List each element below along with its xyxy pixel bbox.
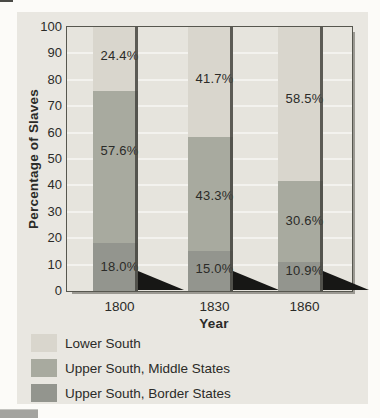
x-tick-label-1800: 1800	[90, 299, 150, 314]
bar-1860: 10.9%30.6%58.5%	[278, 27, 323, 291]
legend-swatch-icon	[31, 384, 57, 402]
x-axis-title: Year	[199, 316, 228, 331]
scan-artifact-mark	[0, 0, 13, 2]
bar-1800: 18.0%57.6%24.4%	[93, 27, 138, 291]
scanned-chart-page: Percentage of Slaves 18.0%57.6%24.4%15.0…	[0, 0, 380, 418]
bar-shadow-triangle	[138, 271, 184, 290]
y-tick-label-30: 30	[20, 204, 62, 220]
y-tick-label-60: 60	[20, 125, 62, 141]
y-tick-label-10: 10	[20, 257, 62, 273]
legend-swatch-icon	[31, 359, 57, 377]
legend-row: Upper South, Middle States	[31, 359, 231, 377]
bar-segment	[93, 91, 138, 243]
legend-label: Upper South, Border States	[65, 386, 231, 401]
y-tick-label-90: 90	[20, 45, 62, 61]
y-tick-label-80: 80	[20, 72, 62, 88]
bar-1830: 15.0%43.3%41.7%	[188, 27, 233, 291]
y-tick-label-100: 100	[20, 19, 62, 35]
bar-edge-shadow	[320, 27, 323, 291]
legend-label: Upper South, Middle States	[65, 361, 230, 376]
y-tick-label-70: 70	[20, 98, 62, 114]
y-tick-label-20: 20	[20, 230, 62, 246]
bar-edge-shadow	[230, 27, 233, 291]
plot-area: 18.0%57.6%24.4%15.0%43.3%41.7%10.9%30.6%…	[67, 27, 352, 291]
page-corner-block	[0, 409, 38, 418]
legend-row: Lower South	[31, 334, 231, 352]
y-tick-label-50: 50	[20, 151, 62, 167]
legend-swatch-icon	[31, 334, 57, 352]
x-tick-label-1860: 1860	[275, 299, 335, 314]
bar-shadow-triangle	[233, 271, 279, 290]
y-tick-label-40: 40	[20, 177, 62, 193]
x-tick-label-1830: 1830	[185, 299, 245, 314]
legend: Lower SouthUpper South, Middle StatesUpp…	[31, 334, 231, 409]
y-tick-label-0: 0	[20, 283, 62, 299]
bar-shadow-triangle	[323, 271, 369, 290]
bar-edge-shadow	[135, 27, 138, 291]
legend-label: Lower South	[65, 336, 141, 351]
legend-row: Upper South, Border States	[31, 384, 231, 402]
